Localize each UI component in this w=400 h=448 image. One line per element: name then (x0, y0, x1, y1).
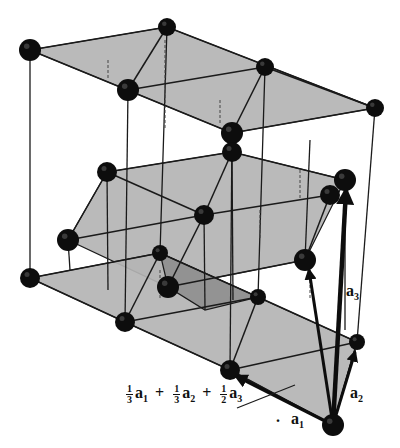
atom-highlight (122, 83, 128, 89)
atom-highlight (226, 126, 232, 132)
atom-sphere (221, 122, 243, 144)
atom-sphere (320, 185, 340, 205)
atom-sphere (220, 360, 240, 380)
atom-highlight (327, 418, 333, 424)
atom-sphere (322, 414, 344, 436)
atom-sphere (250, 289, 266, 305)
atom-sphere (366, 99, 384, 117)
vertical-bond-line (357, 108, 375, 342)
atom-highlight (299, 253, 305, 259)
atom-highlight (156, 248, 160, 252)
fraction-1-3: 13 (126, 384, 133, 405)
crystal-lattice-figure: a3 a2 a1 . 13a1 + 13a2 + 12a3 (0, 0, 400, 448)
atom-highlight (120, 316, 125, 321)
fraction-1-2: 12 (220, 384, 227, 405)
atom-sphere (194, 205, 214, 225)
atom-highlight (339, 173, 345, 179)
label-a3: a3 (346, 282, 359, 300)
atom-sphere (294, 249, 316, 271)
atom-sphere (97, 162, 117, 182)
atom-highlight (24, 43, 30, 49)
atom-highlight (254, 292, 258, 296)
atom-sphere (115, 312, 135, 332)
atom-highlight (260, 62, 265, 67)
atom-highlight (62, 233, 68, 239)
atom-highlight (227, 146, 232, 151)
atom-highlight (162, 22, 167, 27)
atom-highlight (25, 272, 30, 277)
atom-sphere (349, 334, 365, 350)
atom-sphere (20, 268, 40, 288)
atom-sphere (19, 39, 41, 61)
formula-label: 13a1 + 13a2 + 12a3 (124, 384, 242, 405)
stray-dot: . (276, 408, 280, 426)
atom-highlight (199, 209, 204, 214)
fraction-1-3: 13 (173, 384, 180, 405)
atom-sphere (117, 79, 139, 101)
atom-highlight (225, 364, 230, 369)
atom-highlight (325, 189, 330, 194)
atom-highlight (102, 166, 107, 171)
lattice-diagram (0, 0, 400, 448)
atom-sphere (222, 142, 242, 162)
atom-highlight (353, 337, 357, 341)
atom-sphere (152, 245, 168, 261)
atom-sphere (256, 58, 274, 76)
label-a1: a1 (291, 410, 304, 428)
atom-highlight (370, 103, 375, 108)
atom-highlight (162, 280, 168, 286)
atom-sphere (334, 169, 356, 191)
label-a2: a2 (350, 384, 363, 402)
atom-sphere (158, 18, 176, 36)
atom-sphere (57, 229, 79, 251)
atom-sphere (157, 276, 179, 298)
